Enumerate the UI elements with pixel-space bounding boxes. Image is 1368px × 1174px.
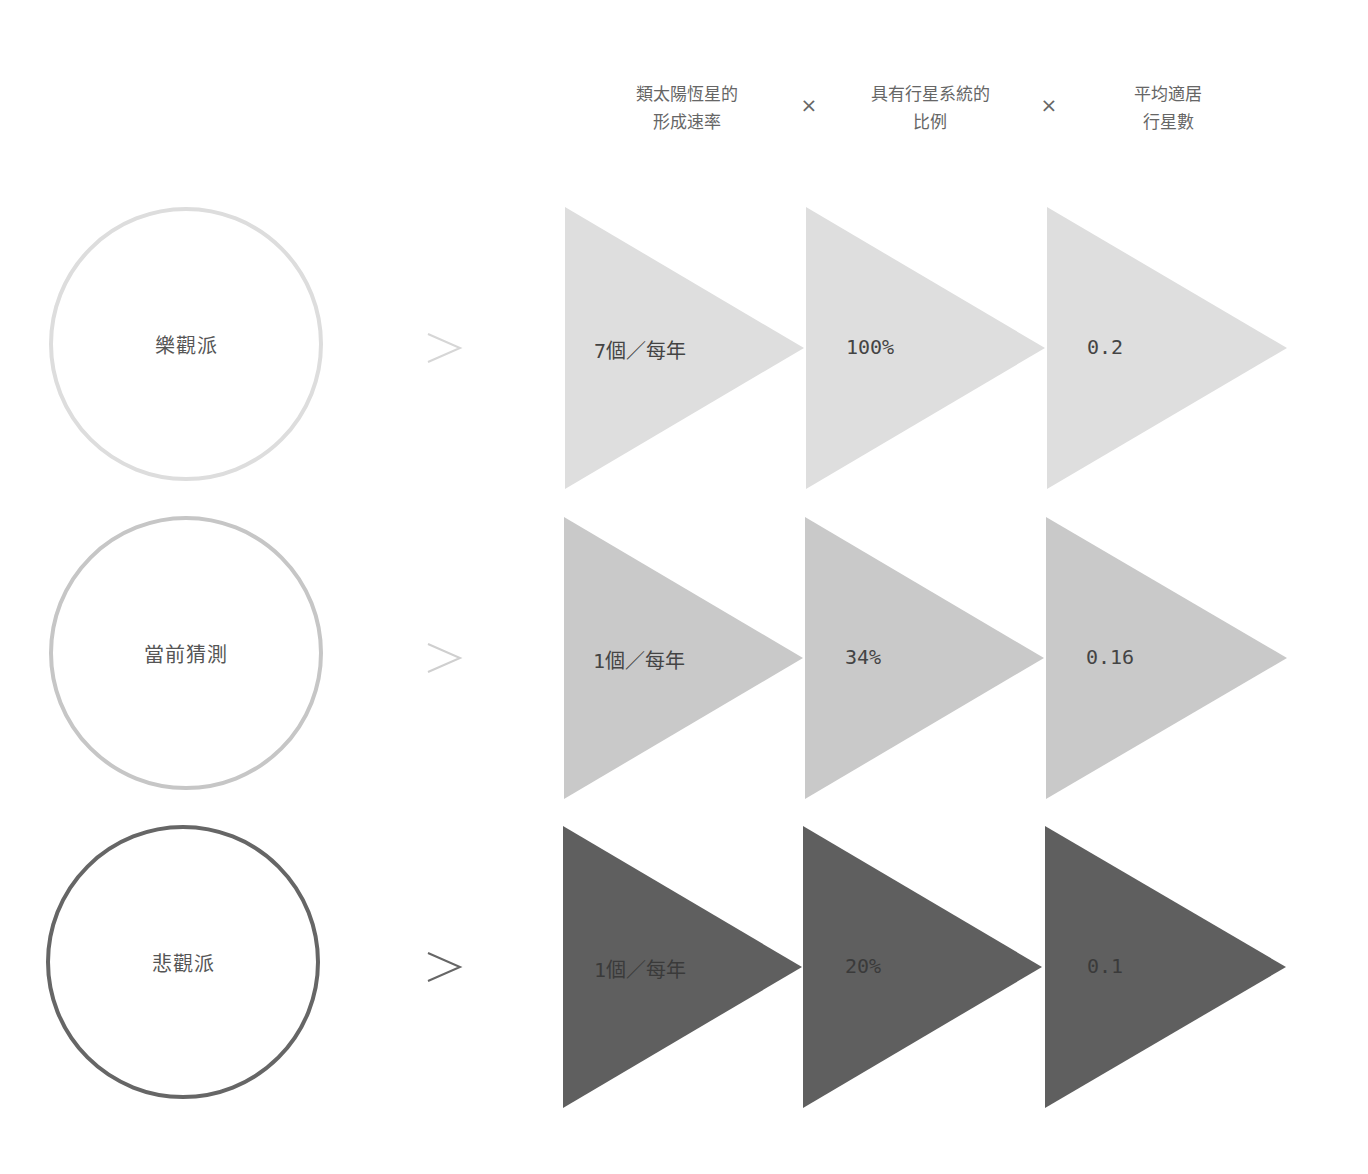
triangle-shape [1046,517,1288,799]
value-triangle: 34% [805,517,1045,799]
planetary-fraction-value: 34% [845,645,881,669]
scenario-circle: 樂觀派 [49,207,323,481]
scenario-label: 樂觀派 [155,330,218,359]
star-formation-value: 1個／每年 [594,954,686,983]
header-line: 形成速率 [587,108,787,136]
triangle-shape [805,517,1045,799]
star-formation-value: 7個／每年 [594,335,686,364]
star-formation-value: 1個／每年 [593,645,685,674]
planetary-fraction-value: 100% [846,335,894,359]
triangle-shape [1045,826,1287,1108]
triangle-shape [806,207,1046,489]
value-triangle: 0.2 [1047,207,1287,489]
chevron-right-icon [424,638,464,678]
header-line: 類太陽恆星的 [587,80,787,108]
header-line: 行星數 [1068,108,1268,136]
triangle-shape [1047,207,1287,489]
habitable-planets-value: 0.2 [1087,335,1123,359]
scenario-label: 當前猜測 [144,639,228,668]
chevron-right-icon [424,947,464,987]
scenario-label: 悲觀派 [152,948,215,977]
header-planetary-system-fraction: 具有行星系統的 比例 [830,80,1030,136]
value-triangle: 7個／每年 [565,207,805,489]
value-triangle: 0.1 [1045,826,1285,1108]
multiply-operator: × [794,93,824,117]
value-triangle: 100% [806,207,1046,489]
scenario-circle: 當前猜測 [49,516,323,790]
value-triangle: 1個／每年 [563,826,803,1108]
planetary-fraction-value: 20% [845,954,881,978]
triangle-shape [803,826,1043,1108]
header-habitable-planets: 平均適居 行星數 [1068,80,1268,136]
header-star-formation-rate: 類太陽恆星的 形成速率 [587,80,787,136]
header-line: 平均適居 [1068,80,1268,108]
value-triangle: 0.16 [1046,517,1286,799]
value-triangle: 1個／每年 [564,517,804,799]
value-triangle: 20% [803,826,1043,1108]
header-line: 具有行星系統的 [830,80,1030,108]
chevron-right-icon [424,328,464,368]
habitable-planets-value: 0.16 [1086,645,1134,669]
scenario-circle: 悲觀派 [46,825,320,1099]
multiply-operator: × [1034,93,1064,117]
habitable-planets-value: 0.1 [1087,954,1123,978]
header-line: 比例 [830,108,1030,136]
